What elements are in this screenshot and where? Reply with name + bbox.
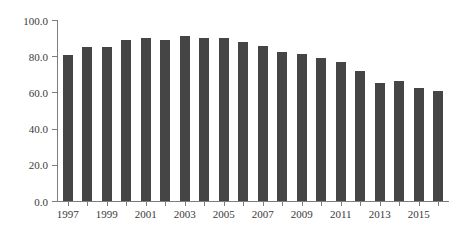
x-axis-tick [321,201,322,206]
x-axis-tick [204,201,205,206]
bar [277,52,287,201]
bar [336,62,346,201]
x-axis-line [57,201,449,202]
bar [199,38,209,201]
x-axis-tick [87,201,88,206]
y-axis-tick-label: 100.0 [23,15,48,26]
y-axis-tick-label: 80.0 [29,51,48,62]
x-axis-tick-label: 2013 [369,208,391,220]
x-axis-tick-label: 2001 [135,208,157,220]
bar [433,91,443,201]
x-axis-tick [282,201,283,206]
x-axis-tick-label: 2015 [408,208,430,220]
bar [102,47,112,201]
x-axis-tick-label: 1999 [96,208,118,220]
x-axis-tick [263,201,264,206]
x-axis-tick [107,201,108,206]
bar [375,83,385,201]
x-axis-tick [185,201,186,206]
bar [121,40,131,201]
y-axis-tick: 0.0 [52,201,58,202]
bar [394,81,404,201]
x-axis-tick-label: 2009 [291,208,313,220]
x-axis-tick [302,201,303,206]
bar [82,47,92,201]
bar [316,58,326,201]
y-axis-tick-label: 0.0 [34,196,48,207]
bar [297,54,307,201]
y-axis-tick-label: 60.0 [29,87,48,98]
x-axis-tick [68,201,69,206]
x-axis-tick-label: 2007 [252,208,274,220]
bar [355,71,365,201]
x-axis-tick-label: 2003 [174,208,196,220]
x-axis-tick [419,201,420,206]
y-axis-tick-label: 20.0 [29,160,48,171]
y-axis-tick-label: 40.0 [29,124,48,135]
bar [219,38,229,201]
x-axis-tick [165,201,166,206]
x-axis-tick [126,201,127,206]
x-axis-tick [380,201,381,206]
x-axis-tick [224,201,225,206]
bar [160,40,170,201]
bar [414,88,424,201]
x-axis-tick-label: 2005 [213,208,235,220]
bar [258,46,268,201]
x-axis-tick [341,201,342,206]
bar [238,42,248,201]
x-axis-tick [243,201,244,206]
plot-area [58,20,448,201]
x-axis-tick [438,201,439,206]
x-axis-tick-label: 2011 [330,208,352,220]
bar [63,55,73,201]
x-axis-tick-label: 1997 [57,208,79,220]
x-axis-tick [399,201,400,206]
bar-chart: 100.080.060.040.020.00.0 199719992001200… [0,0,456,236]
bar [180,36,190,201]
x-axis-tick [360,201,361,206]
x-axis-tick [146,201,147,206]
bar [141,38,151,201]
